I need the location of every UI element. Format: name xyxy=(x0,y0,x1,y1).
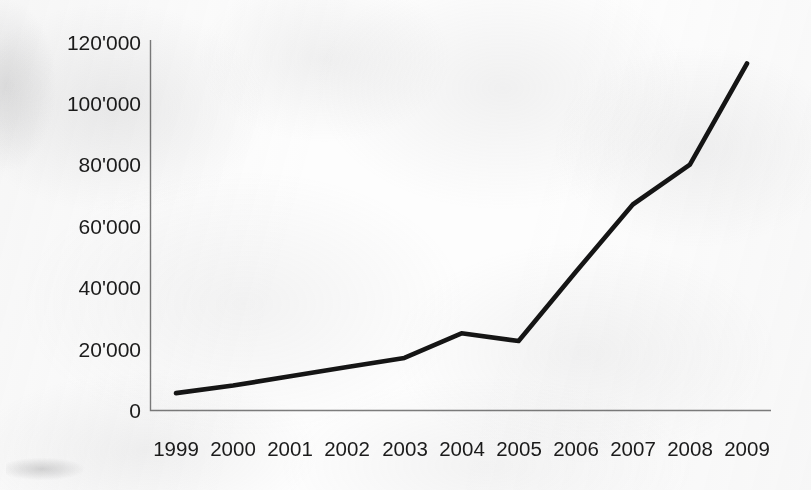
x-tick-label: 2000 xyxy=(210,437,256,460)
data-series-line xyxy=(176,64,747,394)
x-tick-label: 2004 xyxy=(439,437,485,460)
y-tick-label: 20'000 xyxy=(79,338,141,361)
y-tick-label: 40'000 xyxy=(79,276,141,299)
x-tick-label: 2009 xyxy=(724,437,770,460)
y-tick-label: 80'000 xyxy=(79,153,141,176)
y-axis-tick-labels: 120'000 100'000 80'000 60'000 40'000 20'… xyxy=(67,31,141,422)
x-tick-label: 2007 xyxy=(610,437,656,460)
x-tick-label: 2002 xyxy=(324,437,370,460)
x-tick-label: 2001 xyxy=(267,437,313,460)
y-tick-label: 0 xyxy=(129,399,141,422)
x-tick-label: 2006 xyxy=(553,437,599,460)
x-tick-label: 1999 xyxy=(153,437,199,460)
x-tick-label: 2008 xyxy=(667,437,713,460)
chart-page: 120'000 100'000 80'000 60'000 40'000 20'… xyxy=(0,0,811,490)
y-tick-label: 120'000 xyxy=(67,31,141,54)
y-tick-label: 100'000 xyxy=(67,92,141,115)
axis-spines xyxy=(151,40,772,411)
line-chart: 120'000 100'000 80'000 60'000 40'000 20'… xyxy=(0,0,811,490)
y-tick-label: 60'000 xyxy=(79,215,141,238)
x-axis-tick-labels: 1999 2000 2001 2002 2003 2004 2005 2006 … xyxy=(153,437,770,460)
chart-svg: 120'000 100'000 80'000 60'000 40'000 20'… xyxy=(0,0,811,490)
x-tick-label: 2003 xyxy=(382,437,428,460)
x-tick-label: 2005 xyxy=(496,437,542,460)
